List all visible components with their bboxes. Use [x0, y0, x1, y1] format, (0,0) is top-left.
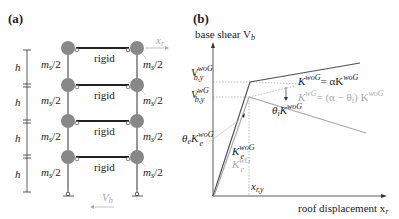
- rigid-label-3: rigid: [94, 89, 115, 101]
- rigid-label-4: rigid: [94, 52, 115, 64]
- y-axis-arrowhead: [211, 42, 215, 48]
- x-axis-label: roof displacement xr: [298, 202, 389, 216]
- rigid-label-1: rigid: [94, 161, 115, 173]
- mass-node: [130, 150, 144, 164]
- xry-label: xr,y: [250, 180, 264, 194]
- roof-displacement-arrow: xr: [145, 34, 169, 50]
- hinge-icon: [75, 85, 79, 89]
- svg-text:xr: xr: [155, 34, 165, 48]
- svg-text:ms/2: ms/2: [41, 94, 61, 108]
- rigid-label-2: rigid: [94, 125, 115, 137]
- pin-support-icon: [132, 190, 143, 196]
- svg-text:ms/2: ms/2: [41, 58, 61, 72]
- panel-a-label: (a): [8, 11, 23, 26]
- svg-text:ms/2: ms/2: [143, 130, 163, 144]
- y-axis-label: base shear Vb: [195, 28, 255, 42]
- mass-node: [130, 41, 144, 55]
- ki-wg-equation: KwG= (α − θi) KwoG: [297, 89, 384, 105]
- hinge-icon: [126, 48, 130, 52]
- hinge-icon: [126, 157, 130, 161]
- h-label-4: h: [15, 168, 21, 180]
- chart-axes: [213, 46, 383, 196]
- hinge-icon: [75, 157, 79, 161]
- svg-text:ms/2: ms/2: [143, 58, 163, 72]
- svg-text:Vb: Vb: [102, 191, 113, 205]
- ki-wog-equation: KwoG= αKwoG: [297, 73, 358, 87]
- h-label-1: h: [15, 61, 21, 73]
- hinge-icon: [75, 48, 79, 52]
- svg-text:ms/2: ms/2: [41, 130, 61, 144]
- vby-wg-label: VwGb,y: [191, 86, 209, 104]
- hinge-icon: [126, 85, 130, 89]
- mass-labels-right: ms/2 ms/2 ms/2 ms/2: [143, 58, 163, 180]
- theta-i-ke-label: θiKwoG: [272, 102, 302, 118]
- arrowhead-icon: [284, 97, 288, 101]
- vby-wog-label: VwoGb,y: [191, 64, 213, 82]
- mass-leaders: [141, 53, 146, 167]
- mass-node: [130, 114, 144, 128]
- svg-text:ms/2: ms/2: [41, 166, 61, 180]
- h-label-2: h: [15, 96, 21, 108]
- story-height-dimension: [23, 50, 31, 192]
- mass-node: [130, 78, 144, 92]
- mass-node: [61, 150, 75, 164]
- hinge-icon: [75, 121, 79, 125]
- mass-node: [61, 41, 75, 55]
- base-shear-arrow: Vb: [90, 191, 114, 209]
- mass-node: [61, 114, 75, 128]
- ke-wg-label: KwGe: [231, 156, 251, 174]
- x-axis-arrowhead: [381, 194, 387, 198]
- pin-support-icon: [63, 190, 74, 196]
- hinge-icon: [126, 121, 130, 125]
- mass-labels-left: ms/2 ms/2 ms/2 ms/2: [41, 58, 61, 180]
- panel-b-label: (b): [193, 11, 209, 26]
- theta-e-ke-label: θeKwoGe: [182, 130, 214, 148]
- figure: (a) h h h h: [0, 0, 399, 219]
- h-label-3: h: [15, 132, 21, 144]
- svg-text:ms/2: ms/2: [143, 166, 163, 180]
- mass-node: [61, 78, 75, 92]
- svg-text:ms/2: ms/2: [143, 94, 163, 108]
